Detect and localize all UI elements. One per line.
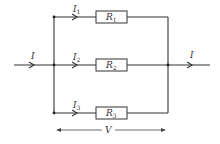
junction-dot [53, 16, 56, 19]
circuit-diagram: I I1 R1 I2 R2 I3 R3 I [0, 0, 220, 144]
branch-3: I3 R3 [54, 100, 168, 119]
junction-dot [53, 64, 56, 67]
branch-2-current-label: I2 [72, 52, 81, 63]
output-current-label: I [189, 50, 194, 60]
voltage-arrow-right-icon [161, 128, 166, 132]
branch-1-current-label: I1 [72, 4, 80, 15]
branch-1: I1 R1 [54, 4, 168, 23]
voltage-arrow-left-icon [56, 128, 61, 132]
branch-3-current-label: I3 [72, 100, 81, 111]
input-current-label: I [30, 51, 35, 61]
voltage-label: V [105, 125, 113, 135]
branch-2: I2 R2 [54, 52, 210, 71]
junction-dot [53, 112, 56, 115]
voltage-indicator: V [56, 125, 166, 135]
junction-dot [167, 64, 170, 67]
